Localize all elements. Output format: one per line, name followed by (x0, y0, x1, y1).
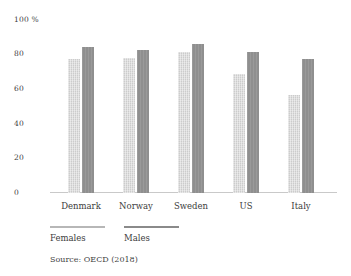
bar-females-sweden (178, 52, 190, 193)
bar-females-italy (288, 95, 300, 193)
bar-males-italy (302, 59, 314, 193)
bar-males-sweden (192, 44, 204, 193)
bar-females-norway (123, 58, 135, 193)
y-tick-label-40: 40 (14, 119, 24, 128)
y-tick-label-80: 80 (14, 49, 24, 58)
y-tick-label-20: 20 (14, 153, 24, 162)
bar-males-denmark (82, 47, 94, 193)
x-axis-label-italy: Italy (266, 201, 336, 211)
bar-females-us (233, 74, 245, 193)
y-tick-label-60: 60 (14, 84, 24, 93)
employment-rate-bar-chart: 100 %806040200 DenmarkNorwaySwedenUSItal… (0, 0, 351, 276)
legend-label-females: Females (50, 233, 86, 243)
y-tick-label-0: 0 (14, 188, 19, 197)
bar-females-denmark (68, 59, 80, 193)
bar-males-norway (137, 50, 149, 193)
source-note: Source: OECD (2018) (50, 255, 138, 265)
legend-label-males: Males (124, 233, 150, 243)
y-tick-label-100: 100 % (14, 15, 39, 24)
legend-swatch-males (124, 226, 179, 228)
bar-males-us (247, 52, 259, 193)
legend-swatch-females (50, 226, 105, 228)
